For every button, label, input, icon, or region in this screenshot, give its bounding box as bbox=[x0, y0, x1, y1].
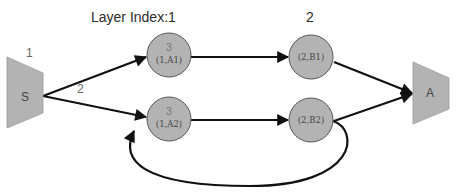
node-a2-count: 3 bbox=[166, 105, 172, 117]
edges bbox=[43, 57, 412, 186]
edge-label-2: 2 bbox=[77, 82, 84, 96]
sink-node[interactable]: A bbox=[413, 62, 449, 124]
layer-index-label-2: 2 bbox=[306, 9, 314, 25]
edge-b1-to-sink bbox=[334, 62, 412, 93]
node-a2-label: (1,A2) bbox=[156, 119, 182, 129]
edge-label-1: 1 bbox=[26, 46, 33, 60]
node-b2-label: (2,B2) bbox=[298, 115, 324, 125]
layer-index-label-1: Layer Index:1 bbox=[91, 9, 176, 25]
edge-s-to-a1 bbox=[43, 57, 146, 96]
source-node-label: S bbox=[21, 90, 29, 104]
node-a1[interactable]: 3 (1,A1) bbox=[147, 33, 191, 77]
edge-b2-to-sink bbox=[334, 94, 412, 121]
node-b1[interactable]: (2,B1) bbox=[289, 35, 333, 79]
source-node[interactable]: S bbox=[7, 57, 43, 128]
diagram-canvas: Layer Index:1 2 1 2 S 3 (1,A1) 3 (1,A2) … bbox=[0, 0, 458, 192]
node-b1-label: (2,B1) bbox=[298, 52, 324, 62]
node-a1-count: 3 bbox=[166, 41, 172, 53]
node-a2[interactable]: 3 (1,A2) bbox=[147, 97, 191, 141]
node-b2[interactable]: (2,B2) bbox=[289, 98, 333, 142]
node-a1-label: (1,A1) bbox=[156, 55, 182, 65]
edge-s-to-a2 bbox=[43, 96, 146, 117]
sink-node-label: A bbox=[426, 86, 434, 100]
